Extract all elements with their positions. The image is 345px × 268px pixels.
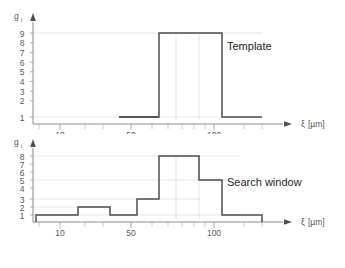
y-tick-label: 1 bbox=[20, 113, 25, 123]
y-tick-label: 8 bbox=[20, 38, 25, 48]
x-tick-label: 10 bbox=[55, 228, 65, 238]
search-step-curve bbox=[36, 156, 262, 222]
y-tick-label: 4 bbox=[20, 77, 25, 87]
template-x-axis bbox=[33, 121, 292, 127]
search-x-tickmarks bbox=[39, 222, 262, 228]
x-axis-units: [µm] bbox=[308, 119, 325, 129]
template-vertical-gridlines bbox=[176, 33, 199, 120]
chart-panel-template: g i 9 8 7 6 5 4 3 2 1 bbox=[0, 0, 345, 134]
x-tick-label: 50 bbox=[126, 228, 136, 238]
template-y-axis bbox=[30, 13, 36, 124]
template-y-axis-label: g bbox=[14, 11, 19, 21]
template-chart-svg: g i 9 8 7 6 5 4 3 2 1 bbox=[0, 0, 345, 134]
y-tick-label: 1 bbox=[20, 211, 25, 221]
y-tick-label: 3 bbox=[20, 87, 25, 97]
search-y-tickmarks bbox=[30, 156, 33, 215]
template-y-axis-label-sub: i bbox=[21, 17, 22, 23]
y-tick-label: 6 bbox=[20, 58, 25, 68]
y-tick-label: 5 bbox=[20, 67, 25, 77]
template-x-tickmarks bbox=[39, 124, 262, 130]
y-tick-label: 2 bbox=[20, 96, 25, 106]
y-tick-label: 4 bbox=[20, 184, 25, 194]
template-y-tickmarks bbox=[30, 33, 33, 117]
search-x-axis-title: ξ [µm] bbox=[301, 217, 325, 227]
figure-root: g i 9 8 7 6 5 4 3 2 1 bbox=[0, 0, 345, 268]
x-axis-symbol: ξ bbox=[301, 217, 305, 227]
x-tick-label: 100 bbox=[207, 228, 221, 238]
x-axis-symbol: ξ bbox=[301, 119, 305, 129]
search-window-chart-svg: g i 8 7 6 5 4 3 2 1 bbox=[0, 134, 345, 268]
template-annotation: Template bbox=[227, 40, 272, 52]
x-axis-units: [µm] bbox=[308, 217, 325, 227]
search-vertical-gridlines bbox=[176, 156, 199, 219]
search-y-axis bbox=[30, 139, 36, 222]
search-y-axis-label: g bbox=[14, 137, 19, 147]
y-tick-label: 9 bbox=[20, 29, 25, 39]
search-y-axis-label-sub: i bbox=[21, 143, 22, 149]
search-y-ticklabels: 8 7 6 5 4 3 2 1 bbox=[20, 152, 25, 221]
template-y-ticklabels: 9 8 7 6 5 4 3 2 1 bbox=[20, 29, 25, 123]
template-x-axis-title: ξ [µm] bbox=[301, 119, 325, 129]
search-window-annotation: Search window bbox=[227, 176, 302, 188]
search-x-ticklabels: 10 50 100 bbox=[55, 228, 221, 238]
y-tick-label: 7 bbox=[20, 48, 25, 58]
search-x-axis bbox=[33, 219, 292, 225]
chart-panel-search-window: g i 8 7 6 5 4 3 2 1 bbox=[0, 134, 345, 268]
